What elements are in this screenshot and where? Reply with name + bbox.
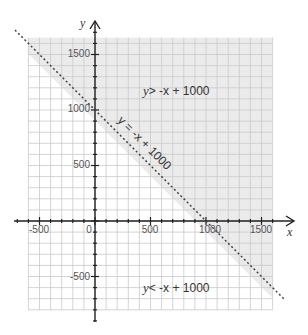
y-tick-label: 500 bbox=[73, 159, 90, 170]
x-axis-label: x bbox=[286, 225, 293, 239]
y-tick-label: 1000 bbox=[68, 103, 91, 114]
y-tick-label: 1500 bbox=[68, 48, 91, 59]
x-tick-label: 500 bbox=[142, 224, 159, 235]
x-tick-label: 1000 bbox=[199, 224, 222, 235]
y-axis-label: y bbox=[79, 16, 86, 30]
inequality-chart: y x -500 0 500 1000 1500 1500 1000 500 -… bbox=[0, 0, 308, 335]
region-label-above-text: > -x + 1000 bbox=[149, 84, 210, 98]
y-tick-label: -500 bbox=[70, 271, 90, 282]
region-label-below: y< -x + 1000 bbox=[141, 280, 210, 295]
origin-label: 0 bbox=[86, 224, 92, 235]
x-tick-label: 1500 bbox=[250, 224, 273, 235]
region-label-below-text: < -x + 1000 bbox=[149, 281, 210, 295]
x-tick-label: -500 bbox=[29, 224, 49, 235]
region-label-above: y> -x + 1000 bbox=[141, 83, 210, 98]
